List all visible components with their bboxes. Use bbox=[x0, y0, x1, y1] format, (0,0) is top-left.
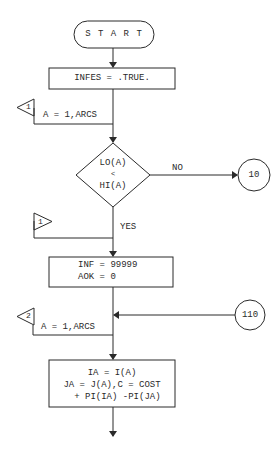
loop1-end-bracket bbox=[34, 221, 113, 238]
yes-label: YES bbox=[120, 222, 136, 233]
loop2-range-label: A = 1,ARCS bbox=[41, 322, 95, 333]
loop1-range-label: A = 1,ARCS bbox=[43, 110, 97, 121]
decision-line3: HI(A) bbox=[83, 181, 143, 192]
compute-line2: JA = J(A),C = COST bbox=[49, 380, 175, 391]
assign-line2: AOK = 0 bbox=[78, 272, 116, 283]
start-label: S T A R T bbox=[74, 29, 154, 40]
no-label: NO bbox=[172, 163, 183, 174]
decision-line1: LO(A) bbox=[83, 158, 143, 169]
loop1-marker-number: 1 bbox=[26, 101, 31, 112]
connector-10-label: 10 bbox=[238, 170, 270, 181]
compute-line3: + PI(IA) -PI(JA) bbox=[49, 392, 175, 403]
init-label: INFES = .TRUE. bbox=[49, 73, 175, 84]
connector-110-label: 110 bbox=[235, 310, 265, 321]
loop1-end-marker-icon bbox=[34, 213, 52, 230]
assign-line1: INF = 99999 bbox=[78, 260, 137, 271]
loop1-end-marker-number: 1 bbox=[38, 216, 43, 227]
compute-line1: IA = I(A) bbox=[49, 368, 175, 379]
loop2-marker-number: 2 bbox=[26, 310, 31, 321]
decision-line2: < bbox=[83, 169, 143, 180]
